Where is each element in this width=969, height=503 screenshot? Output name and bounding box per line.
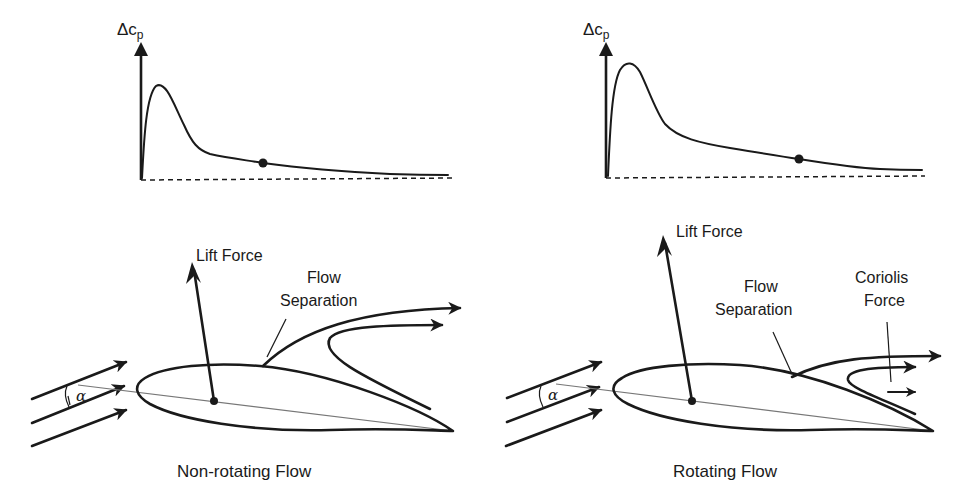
coriolis-leader-line [887,322,891,382]
freestream-arrow-bottom [506,410,601,446]
angle-bracket [539,386,543,407]
panel-caption: Rotating Flow [673,462,778,481]
coriolis-force-label-line1: Coriolis [855,269,908,286]
separation-point-marker [259,159,268,168]
flow-separation-label-line2: Separation [715,301,792,318]
separation-leader-line [267,319,286,357]
separated-streamline-outer [263,308,460,366]
pressure-chart-non-rotating: Δcp [117,20,456,180]
pressure-center-dot [210,397,218,405]
lift-arrowhead-icon [186,262,201,284]
freestream-arrows: α [32,362,126,446]
angle-of-attack-label: α [76,387,86,405]
flow-separation-label-line1: Flow [744,278,778,295]
flow-separation-label-line2: Separation [280,292,357,309]
panel-rotating: Δcp α Lift Force Flow Separation [506,20,940,481]
zero-baseline [606,176,925,178]
lift-force-arrow [194,270,214,401]
pressure-curve [608,63,922,176]
recirculation-streamline [848,367,915,414]
flow-separation-label-line1: Flow [307,269,341,286]
zero-baseline [141,178,456,180]
pressure-center-dot [688,397,696,405]
figure-canvas: Δcp α Lift Force Flow Separation [0,0,969,503]
separation-leader-line [773,332,792,374]
pressure-chart-rotating: Δcp [583,20,925,178]
lift-arrowhead-icon [657,235,672,257]
separation-point-marker [795,155,804,164]
separated-streamline-outer [792,356,940,377]
lift-force-label: Lift Force [676,223,743,240]
y-axis-arrowhead-icon [599,42,613,56]
lift-force-arrow [665,243,692,401]
pressure-curve [142,85,448,178]
freestream-arrows: α [506,362,601,446]
panel-non-rotating: Δcp α Lift Force Flow Separation [32,20,460,481]
coriolis-force-label-line2: Force [864,292,905,309]
freestream-arrow-bottom [32,410,126,446]
angle-arc [68,396,70,405]
axis-label-delta-cp: Δcp [583,20,610,42]
axis-label-delta-cp: Δcp [117,20,144,42]
angle-of-attack-label: α [548,386,558,404]
lift-force-label: Lift Force [196,247,263,264]
panel-caption: Non-rotating Flow [177,462,312,481]
y-axis-arrowhead-icon [134,42,148,56]
